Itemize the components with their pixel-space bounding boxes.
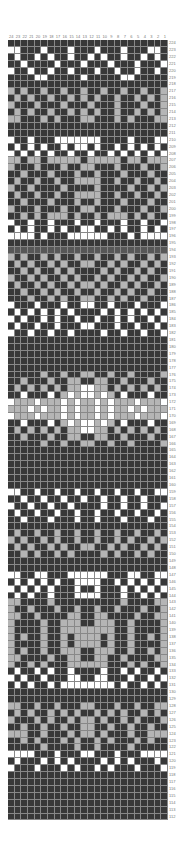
stitch-cell — [135, 247, 142, 254]
stitch-cell — [135, 233, 142, 240]
stitch-cell — [15, 164, 22, 171]
stitch-cell — [135, 744, 142, 751]
stitch-cell — [101, 413, 108, 420]
stitch-cell — [161, 344, 168, 351]
stitch-cell — [148, 413, 155, 420]
row-number: 136 — [169, 648, 176, 655]
stitch-cell — [95, 593, 102, 600]
stitch-cell — [148, 606, 155, 613]
stitch-cell — [8, 572, 15, 579]
chart-row: 122 — [8, 744, 168, 751]
stitch-cell — [35, 95, 42, 102]
stitch-cell — [61, 164, 68, 171]
stitch-cell — [81, 157, 88, 164]
stitch-cell — [8, 282, 15, 289]
stitch-cell — [28, 40, 35, 47]
stitch-cell — [148, 330, 155, 337]
chart-row: 150 — [8, 551, 168, 558]
stitch-cell — [75, 717, 82, 724]
row-number: 157 — [169, 503, 176, 510]
stitch-cell — [121, 447, 128, 454]
stitch-cell — [95, 171, 102, 178]
stitch-cell — [55, 275, 62, 282]
stitch-cell — [148, 123, 155, 130]
stitch-cell — [68, 689, 75, 696]
stitch-cell — [48, 606, 55, 613]
stitch-cell — [55, 95, 62, 102]
stitch-cell — [48, 151, 55, 158]
stitch-cell — [28, 447, 35, 454]
stitch-cell — [141, 178, 148, 185]
stitch-cell — [55, 613, 62, 620]
stitch-cell — [128, 378, 135, 385]
stitch-cell — [115, 61, 122, 68]
stitch-cell — [75, 47, 82, 54]
stitch-cell — [48, 744, 55, 751]
stitch-cell — [35, 482, 42, 489]
stitch-cell — [15, 461, 22, 468]
stitch-cell — [141, 765, 148, 772]
stitch-cell — [35, 475, 42, 482]
stitch-cell — [21, 275, 28, 282]
stitch-cell — [28, 579, 35, 586]
stitch-cell — [88, 489, 95, 496]
stitch-cell — [135, 385, 142, 392]
stitch-cell — [81, 323, 88, 330]
stitch-cell — [95, 123, 102, 130]
stitch-cell — [95, 392, 102, 399]
stitch-cell — [128, 427, 135, 434]
stitch-cell — [75, 206, 82, 213]
stitch-cell — [161, 703, 168, 710]
stitch-cell — [121, 392, 128, 399]
stitch-cell — [41, 385, 48, 392]
stitch-cell — [148, 247, 155, 254]
stitch-cell — [161, 178, 168, 185]
stitch-cell — [141, 40, 148, 47]
stitch-cell — [35, 213, 42, 220]
stitch-cell — [61, 579, 68, 586]
stitch-cell — [68, 109, 75, 116]
stitch-cell — [148, 772, 155, 779]
stitch-cell — [128, 807, 135, 814]
stitch-cell — [68, 254, 75, 261]
stitch-cell — [21, 178, 28, 185]
stitch-cell — [115, 254, 122, 261]
stitch-cell — [128, 261, 135, 268]
chart-row: 157 — [8, 503, 168, 510]
stitch-cell — [121, 61, 128, 68]
stitch-cell — [95, 744, 102, 751]
chart-row: 214 — [8, 109, 168, 116]
stitch-cell — [55, 814, 62, 821]
stitch-cell — [55, 696, 62, 703]
stitch-cell — [61, 814, 68, 821]
stitch-cell — [81, 772, 88, 779]
stitch-cell — [148, 620, 155, 627]
stitch-cell — [141, 593, 148, 600]
stitch-cell — [135, 47, 142, 54]
stitch-cell — [48, 130, 55, 137]
row-number: 184 — [169, 316, 176, 323]
stitch-cell — [88, 365, 95, 372]
stitch-cell — [35, 558, 42, 565]
stitch-cell — [41, 807, 48, 814]
stitch-cell — [28, 116, 35, 123]
stitch-cell — [8, 47, 15, 54]
stitch-cell — [81, 744, 88, 751]
stitch-cell — [155, 558, 162, 565]
stitch-cell — [148, 544, 155, 551]
stitch-cell — [88, 454, 95, 461]
stitch-cell — [41, 496, 48, 503]
stitch-cell — [161, 171, 168, 178]
stitch-cell — [41, 109, 48, 116]
stitch-cell — [55, 572, 62, 579]
stitch-cell — [81, 641, 88, 648]
stitch-cell — [28, 413, 35, 420]
stitch-cell — [8, 337, 15, 344]
stitch-cell — [75, 648, 82, 655]
stitch-cell — [75, 365, 82, 372]
stitch-cell — [95, 482, 102, 489]
stitch-cell — [101, 171, 108, 178]
stitch-cell — [21, 599, 28, 606]
stitch-cell — [8, 807, 15, 814]
stitch-cell — [81, 427, 88, 434]
